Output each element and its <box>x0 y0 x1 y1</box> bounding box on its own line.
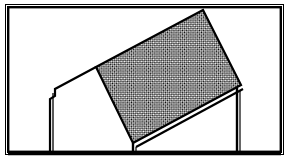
figure-container <box>0 0 289 167</box>
roof-panel-diagram <box>0 0 289 167</box>
